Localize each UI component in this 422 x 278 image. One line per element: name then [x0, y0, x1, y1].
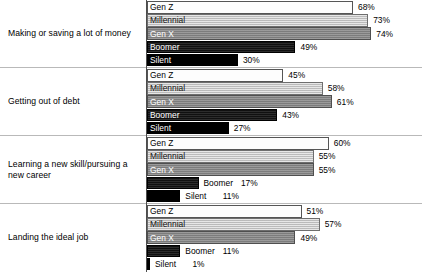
bar-value-label: 61% [337, 97, 354, 107]
bar-series-label: Boomer [150, 42, 179, 52]
bar-row: Millennial73% [0, 14, 422, 27]
bar-rows: Gen Z45%Millennial58%Gen X61%Boomer43%Si… [0, 69, 422, 135]
grouped-bar-chart: Making or saving a lot of moneyGen Z68%M… [0, 0, 422, 278]
bar[interactable]: Gen X [147, 27, 371, 40]
bar-series-label: Silent [185, 191, 206, 201]
bar-series-label: Gen X [150, 165, 174, 175]
bar-row: Silent30% [0, 54, 422, 67]
bar-row: Gen X55% [0, 163, 422, 176]
bar[interactable] [147, 190, 180, 203]
bar-series-label: Gen Z [150, 70, 173, 80]
bar[interactable]: Silent [147, 122, 229, 135]
bar[interactable]: Gen X [147, 163, 314, 176]
bar[interactable]: Millennial [147, 218, 320, 231]
bar-series-label: Gen X [150, 233, 174, 243]
bar-value-label: 60% [334, 138, 351, 148]
bar-value-label: 30% [243, 55, 260, 65]
bar-series-label: Boomer [150, 110, 179, 120]
bar-series-label: Millennial [150, 83, 185, 93]
bar-series-label: Silent [150, 55, 171, 65]
bar-value-label: 43% [282, 110, 299, 120]
bar-value-label: 49% [300, 42, 317, 52]
bar-series-label: Gen Z [150, 138, 173, 148]
bar-rows: Gen Z68%Millennial73%Gen X74%Boomer49%Si… [0, 1, 422, 67]
bar-value-label: 55% [319, 151, 336, 161]
bar-rows: Gen Z60%Millennial55%Gen X55%Boomer17%Si… [0, 137, 422, 203]
bar-group: Landing the ideal jobGen Z51%Millennial5… [0, 204, 422, 272]
bar-row: Gen Z51% [0, 205, 422, 218]
bar-value-label: 49% [300, 233, 317, 243]
bar-row: Boomer11% [0, 245, 422, 258]
bar[interactable]: Gen Z [147, 137, 329, 150]
bar-series-label: Millennial [150, 219, 185, 229]
bar-row: Millennial57% [0, 218, 422, 231]
bar-rows: Gen Z51%Millennial57%Gen X49%Boomer11%Si… [0, 205, 422, 271]
bar-series-label: Millennial [150, 15, 185, 25]
bar-row: Boomer43% [0, 109, 422, 122]
bar[interactable]: Gen Z [147, 205, 302, 218]
bar-row: Gen X61% [0, 95, 422, 108]
bar-value-label: 1% [192, 259, 204, 269]
bar[interactable] [147, 177, 199, 190]
bar-row: Millennial58% [0, 82, 422, 95]
bar[interactable]: Millennial [147, 150, 314, 163]
bar-row: Silent27% [0, 122, 422, 135]
bar-row: Boomer49% [0, 41, 422, 54]
bar-series-label: Boomer [185, 246, 214, 256]
bar-value-label: 51% [307, 206, 324, 216]
bar[interactable] [147, 245, 180, 258]
bar-row: Millennial55% [0, 150, 422, 163]
bar-value-label: 68% [358, 2, 375, 12]
bar-group: Making or saving a lot of moneyGen Z68%M… [0, 0, 422, 68]
bar[interactable]: Gen X [147, 95, 332, 108]
bar-value-label: 27% [234, 123, 251, 133]
bar-series-label: Gen X [150, 97, 174, 107]
bar-group: Getting out of debtGen Z45%Millennial58%… [0, 68, 422, 136]
bar-value-label: 73% [373, 15, 390, 25]
bar[interactable] [147, 258, 150, 271]
bar-group: Learning a new skill/pursuing a new care… [0, 136, 422, 204]
bar-series-label: Gen X [150, 29, 174, 39]
bar[interactable]: Millennial [147, 14, 368, 27]
bar-row: Gen X74% [0, 27, 422, 40]
bar-row: Gen Z60% [0, 137, 422, 150]
bar[interactable]: Silent [147, 54, 238, 67]
bar-row: Gen X49% [0, 231, 422, 244]
bar-series-label: Gen Z [150, 206, 173, 216]
bar-series-label: Millennial [150, 151, 185, 161]
bar-row: Boomer17% [0, 177, 422, 190]
bar-row: Silent11% [0, 190, 422, 203]
bar[interactable]: Boomer [147, 41, 295, 54]
bar-series-label: Boomer [204, 178, 233, 188]
bar-series-label: Silent [150, 123, 171, 133]
bar[interactable]: Gen X [147, 231, 295, 244]
bar-value-label: 58% [328, 83, 345, 93]
bar-value-label: 55% [319, 165, 336, 175]
bar-series-label: Silent [155, 259, 176, 269]
bar[interactable]: Millennial [147, 82, 323, 95]
bar-value-label: 17% [241, 178, 258, 188]
bar-value-label: 11% [223, 191, 239, 201]
bar[interactable]: Gen Z [147, 69, 283, 82]
bar-row: Gen Z68% [0, 1, 422, 14]
bar-value-label: 45% [288, 70, 305, 80]
bar-row: Silent1% [0, 258, 422, 271]
bar[interactable]: Boomer [147, 109, 277, 122]
bar-series-label: Gen Z [150, 2, 173, 12]
bar-value-label: 11% [223, 246, 239, 256]
bar-value-label: 57% [325, 219, 342, 229]
bar[interactable]: Gen Z [147, 1, 353, 14]
bar-value-label: 74% [376, 29, 393, 39]
bar-row: Gen Z45% [0, 69, 422, 82]
